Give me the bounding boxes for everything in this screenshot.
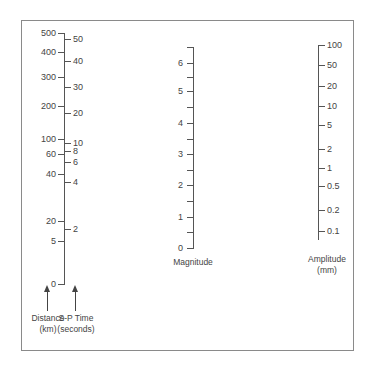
distance-tick <box>58 284 64 285</box>
amplitude-tick <box>319 168 325 169</box>
amplitude-tick <box>319 231 325 232</box>
distance-tick-label: 500 <box>26 28 56 38</box>
amplitude-tick <box>319 210 325 211</box>
amplitude-tick <box>319 45 325 46</box>
distance-axis-line <box>64 33 65 285</box>
magnitude-minor-tick <box>187 107 193 108</box>
amplitude-tick-label: 100 <box>327 40 342 50</box>
magnitude-minor-tick <box>187 170 193 171</box>
magnitude-tick-label: 6 <box>171 58 183 68</box>
distance-tick <box>58 154 64 155</box>
sp-time-tick-label: 20 <box>73 108 83 118</box>
amplitude-tick-label: 10 <box>327 101 337 111</box>
amplitude-tick <box>319 186 325 187</box>
amplitude-tick-label: 20 <box>327 81 337 91</box>
sp-time-caption: S-P Time (seconds) <box>50 313 102 335</box>
distance-tick-label: 100 <box>26 134 56 144</box>
amplitude-tick-label: 5 <box>327 120 332 130</box>
magnitude-minor-tick <box>187 77 193 78</box>
amplitude-caption: Amplitude (mm) <box>300 254 354 276</box>
magnitude-tick <box>187 123 193 124</box>
sp-time-tick-label: 40 <box>73 56 83 66</box>
magnitude-tick-label: 5 <box>171 86 183 96</box>
amplitude-caption-unit: (mm) <box>300 265 354 276</box>
sp-time-tick-label: 2 <box>73 224 78 234</box>
sp-time-arrow-icon <box>75 291 76 311</box>
sp-time-tick-label: 4 <box>73 177 78 187</box>
amplitude-tick-label: 0.2 <box>327 205 340 215</box>
magnitude-tick <box>187 217 193 218</box>
magnitude-tick-label: 3 <box>171 149 183 159</box>
distance-tick <box>58 221 64 222</box>
amplitude-tick-label: 50 <box>327 60 337 70</box>
amplitude-tick-label: 0.1 <box>327 226 340 236</box>
magnitude-minor-tick <box>187 47 193 48</box>
magnitude-minor-tick <box>187 139 193 140</box>
sp-time-caption-unit: (seconds) <box>50 324 102 335</box>
sp-time-tick <box>65 87 71 88</box>
magnitude-tick-label: 1 <box>171 212 183 222</box>
sp-time-tick-label: 30 <box>73 82 83 92</box>
sp-time-tick <box>65 182 71 183</box>
sp-time-tick <box>65 143 71 144</box>
sp-time-tick <box>65 162 71 163</box>
distance-tick-label: 60 <box>26 149 56 159</box>
distance-tick-label: 5 <box>26 236 56 246</box>
distance-tick <box>58 174 64 175</box>
magnitude-tick <box>187 248 193 249</box>
magnitude-tick-label: 0 <box>171 243 183 253</box>
magnitude-minor-tick <box>187 201 193 202</box>
distance-tick <box>58 106 64 107</box>
amplitude-tick-label: 0.5 <box>327 181 340 191</box>
distance-tick <box>58 139 64 140</box>
amplitude-tick <box>319 149 325 150</box>
magnitude-caption: Magnitude <box>166 257 220 268</box>
distance-tick-label: 400 <box>26 47 56 57</box>
distance-tick-label: 20 <box>26 216 56 226</box>
amplitude-tick-label: 2 <box>327 144 332 154</box>
sp-time-tick-label: 6 <box>73 157 78 167</box>
amplitude-tick <box>319 125 325 126</box>
sp-time-tick <box>65 61 71 62</box>
amplitude-tick <box>319 65 325 66</box>
distance-tick <box>58 77 64 78</box>
distance-tick-label: 200 <box>26 101 56 111</box>
magnitude-tick-label: 2 <box>171 180 183 190</box>
sp-time-tick <box>65 229 71 230</box>
distance-arrow-icon <box>47 291 48 311</box>
amplitude-tick <box>319 86 325 87</box>
amplitude-caption-title: Amplitude <box>300 254 354 265</box>
amplitude-tick <box>319 106 325 107</box>
distance-tick <box>58 241 64 242</box>
distance-tick-label: 300 <box>26 72 56 82</box>
magnitude-tick <box>187 91 193 92</box>
distance-tick-label: 0 <box>26 279 56 289</box>
magnitude-axis-line <box>193 47 194 249</box>
sp-time-tick-label: 8 <box>73 146 78 156</box>
sp-time-caption-title: S-P Time <box>50 313 102 324</box>
magnitude-tick <box>187 154 193 155</box>
amplitude-tick-label: 1 <box>327 163 332 173</box>
magnitude-tick <box>187 185 193 186</box>
sp-time-tick <box>65 151 71 152</box>
magnitude-minor-tick <box>187 232 193 233</box>
sp-time-tick-label: 50 <box>73 34 83 44</box>
magnitude-tick-label: 4 <box>171 118 183 128</box>
sp-time-tick <box>65 39 71 40</box>
distance-tick <box>58 52 64 53</box>
sp-time-tick <box>65 113 71 114</box>
distance-tick-label: 40 <box>26 169 56 179</box>
distance-tick <box>58 33 64 34</box>
magnitude-caption-title: Magnitude <box>166 257 220 268</box>
magnitude-tick <box>187 63 193 64</box>
